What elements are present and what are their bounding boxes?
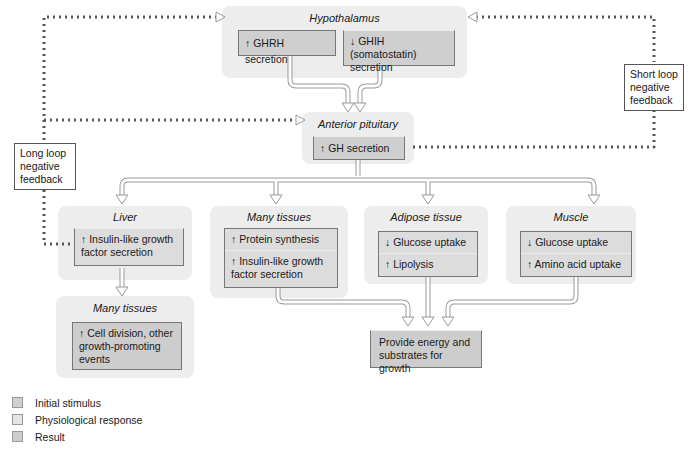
igf-secretion-item: ↑ Insulin-like growth factor secretion: [225, 250, 337, 285]
muscle-box: ↓ Glucose uptake ↑ Amino acid uptake: [520, 231, 632, 277]
gh-secretion-box: ↑ GH secretion: [313, 136, 405, 160]
legend-initial-stimulus: Initial stimulus: [12, 394, 142, 411]
amino-acid-item: ↑ Amino acid uptake: [521, 253, 631, 275]
many-tissues-box: ↑ Protein synthesis ↑ Insulin-like growt…: [224, 228, 338, 288]
long-loop-feedback-label: Long loop negative feedback: [14, 143, 76, 190]
muscle-glucose-item: ↓ Glucose uptake: [521, 232, 631, 253]
legend-result: Result: [12, 428, 142, 445]
legend-label: Result: [35, 431, 65, 443]
legend-swatch-stimulus: [12, 397, 23, 408]
result-box: Provide energy and substrates for growth: [370, 330, 482, 368]
legend-label: Physiological response: [35, 414, 142, 426]
short-loop-feedback-label: Short loop negative feedback: [624, 64, 684, 111]
legend-swatch-result: [12, 431, 23, 442]
liver-igf-box: ↑ Insulin-like growth factor secretion: [74, 228, 184, 266]
adipose-box: ↓ Glucose uptake ↑ Lipolysis: [378, 231, 478, 277]
cell-division-box: ↑ Cell division, other growth-promoting …: [72, 322, 182, 370]
legend-swatch-response: [12, 414, 23, 425]
legend: Initial stimulus Physiological response …: [12, 394, 142, 445]
gh-distribution-arrows: [116, 158, 600, 204]
adipose-glucose-item: ↓ Glucose uptake: [379, 232, 477, 253]
legend-label: Initial stimulus: [35, 397, 101, 409]
lipolysis-item: ↑ Lipolysis: [379, 253, 477, 275]
ghrh-secretion-box: ↑ GHRH secretion: [238, 30, 336, 56]
ghih-secretion-box: ↓ GHIH (somatostatin) secretion: [343, 30, 455, 66]
protein-synthesis-item: ↑ Protein synthesis: [225, 229, 337, 250]
liver-to-tissues-arrow: [116, 268, 128, 296]
legend-physiological-response: Physiological response: [12, 411, 142, 428]
